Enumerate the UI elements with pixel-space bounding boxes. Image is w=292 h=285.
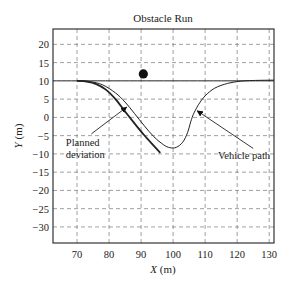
x-axis-label-unit: (m) [157,263,176,276]
y-tick-label: 15 [39,58,50,69]
x-tick-label: 130 [261,249,277,260]
y-tick-label: −15 [33,167,49,178]
x-tick-label: 80 [104,249,115,260]
obstacle-run-chart: Obstacle Run 20151050−5−10−15−20−25−30 7… [0,0,292,285]
y-tick-label: −25 [33,204,49,215]
y-axis-label-unit: (m) [12,123,25,142]
obstacle-markers [139,69,148,78]
annotation-arrow [197,111,253,149]
y-tick-label: 20 [39,39,50,50]
x-axis-label: X (m) [149,263,176,276]
y-axis-tick-labels: 20151050−5−10−15−20−25−30 [33,39,49,233]
x-axis-tick-labels: 708090100110120130 [72,249,277,260]
chart-title: Obstacle Run [133,12,193,24]
y-tick-label: 0 [44,112,49,123]
x-tick-label: 90 [136,249,147,260]
y-tick-label: −20 [33,185,49,196]
x-tick-label: 70 [72,249,83,260]
y-tick-label: −30 [33,222,49,233]
annotations: PlanneddeviationVehicle path [66,107,271,161]
x-tick-label: 120 [229,249,245,260]
annotation-label-line: Planned [66,137,101,148]
x-tick-label: 110 [197,249,212,260]
y-axis-label: Y (m) [12,123,25,148]
annotation-label-line: deviation [66,149,106,160]
y-tick-label: −10 [33,149,49,160]
y-tick-label: 10 [39,76,50,87]
annotation-label-line: Vehicle path [218,150,271,161]
y-tick-label: −5 [38,131,49,142]
obstacle-marker-icon [139,69,148,78]
annotation-label: Planneddeviation [66,137,106,160]
x-tick-label: 100 [165,249,181,260]
annotation-label: Vehicle path [218,150,271,161]
y-tick-label: 5 [44,94,49,105]
